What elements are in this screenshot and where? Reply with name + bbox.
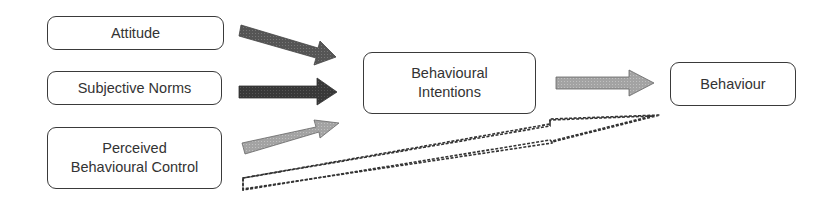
node-attitude-label: Attitude — [111, 24, 160, 43]
node-subjective-norms-label: Subjective Norms — [78, 79, 192, 98]
node-behaviour-label: Behaviour — [700, 75, 765, 94]
node-intentions-label-line1: Behavioural — [411, 64, 488, 83]
node-attitude: Attitude — [47, 16, 224, 50]
node-behaviour: Behaviour — [670, 62, 796, 106]
arrow-attitude-to-intentions — [239, 25, 336, 65]
arrow-intentions-to-behaviour — [556, 70, 654, 96]
arrow-pbc-to-behaviour — [243, 115, 660, 190]
node-perceived-behavioural-control: Perceived Behavioural Control — [47, 127, 222, 189]
arrow-pbc-to-intentions — [242, 120, 339, 154]
node-pbc-label-line2: Behavioural Control — [71, 158, 198, 177]
node-behavioural-intentions: Behavioural Intentions — [363, 52, 536, 114]
node-subjective-norms: Subjective Norms — [47, 71, 222, 105]
node-pbc-label-line1: Perceived — [102, 139, 166, 158]
node-intentions-label-line2: Intentions — [418, 83, 481, 102]
arrow-subjective-norms-to-intentions — [239, 78, 337, 105]
